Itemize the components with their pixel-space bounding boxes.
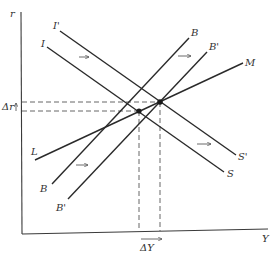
initial-equilibrium-dot	[136, 108, 141, 113]
label-L: L	[30, 146, 38, 157]
label-B-prime-top: B'	[208, 41, 219, 52]
delta-y-label: ΔY	[139, 242, 155, 253]
x-axis-label: Y	[262, 233, 270, 244]
bp-curve-B-prime	[68, 52, 207, 199]
label-B-bottom: B	[39, 183, 47, 194]
label-M: M	[244, 57, 256, 68]
label-S: S	[227, 168, 234, 179]
delta-r-label: Δr	[1, 101, 15, 112]
new-equilibrium-dot	[157, 99, 163, 105]
label-B-top: B	[190, 27, 198, 38]
label-I-prime: I'	[52, 20, 60, 31]
is-curve-I	[47, 47, 224, 172]
label-S-prime: S'	[238, 151, 248, 162]
y-axis	[21, 12, 22, 234]
is-lm-bp-diagram: r Y I' I S' S L M B B B' B' Δr ΔY	[0, 0, 280, 256]
y-axis-label: r	[10, 8, 16, 19]
label-B-prime-bottom: B'	[55, 202, 66, 213]
x-axis	[22, 229, 268, 234]
label-I: I	[40, 38, 46, 49]
